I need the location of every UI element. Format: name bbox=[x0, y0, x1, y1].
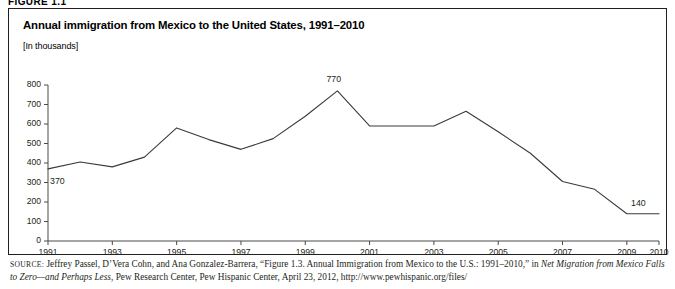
x-axis-tick-label: 1999 bbox=[285, 247, 325, 257]
x-axis-tick-label: 2001 bbox=[350, 247, 390, 257]
source-note: SOURCE: Jeffrey Passel, D’Vera Cohn, and… bbox=[10, 258, 670, 285]
y-axis-tick-label: 400 bbox=[8, 157, 41, 167]
data-point-label: 370 bbox=[50, 176, 65, 186]
chart-svg bbox=[9, 9, 668, 256]
source-text-1: Jeffrey Passel, D’Vera Cohn, and Ana Gon… bbox=[44, 259, 541, 269]
source-label: SOURCE: bbox=[10, 260, 44, 269]
y-axis-tick-label: 600 bbox=[8, 118, 41, 128]
y-axis-tick-label: 700 bbox=[8, 99, 41, 109]
y-axis-tick-label: 200 bbox=[8, 196, 41, 206]
figure-frame: Annual immigration from Mexico to the Un… bbox=[8, 8, 667, 255]
source-text-2: , Pew Research Center, Pew Hispanic Cent… bbox=[111, 272, 467, 282]
x-axis-tick-label: 2010 bbox=[639, 247, 675, 257]
y-axis-tick-label: 500 bbox=[8, 138, 41, 148]
x-axis-tick-label: 2005 bbox=[478, 247, 518, 257]
y-axis-tick-label: 300 bbox=[8, 177, 41, 187]
line-chart-plot: 0100200300400500600700800199119931995199… bbox=[9, 9, 668, 256]
figure-number: FIGURE 1.1 bbox=[8, 0, 66, 7]
x-axis-tick-label: 1997 bbox=[221, 247, 261, 257]
data-point-label: 770 bbox=[326, 74, 341, 84]
y-axis-tick-label: 100 bbox=[8, 216, 41, 226]
data-series-line bbox=[48, 91, 659, 214]
x-axis-tick-label: 1995 bbox=[157, 247, 197, 257]
x-axis-tick-label: 1991 bbox=[28, 247, 68, 257]
y-axis-tick-label: 800 bbox=[8, 79, 41, 89]
x-axis-tick-label: 1993 bbox=[92, 247, 132, 257]
x-axis-tick-label: 2003 bbox=[414, 247, 454, 257]
y-axis-tick-label: 0 bbox=[8, 235, 41, 245]
data-point-label: 140 bbox=[631, 198, 646, 208]
x-axis-tick-label: 2007 bbox=[543, 247, 583, 257]
